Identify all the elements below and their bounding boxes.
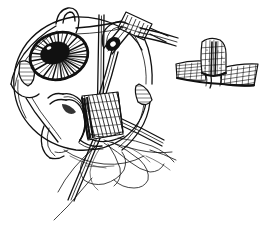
illustration-canvas bbox=[0, 0, 266, 227]
surgical-illustration-figure: Strabismus surgery: extraocular muscle d… bbox=[0, 0, 266, 227]
